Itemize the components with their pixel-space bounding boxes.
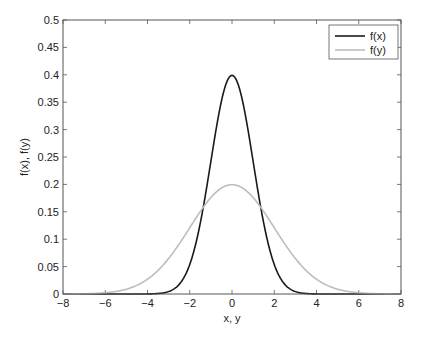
x-tick-label: −2 — [183, 297, 196, 309]
x-tick-label: 8 — [398, 297, 404, 309]
legend-label-fy: f(y) — [370, 44, 386, 56]
y-tick-label: 0.25 — [38, 151, 59, 163]
legend-label-fx: f(x) — [370, 30, 386, 42]
series-line-fy — [63, 185, 401, 294]
y-tick-label: 0.45 — [38, 41, 59, 53]
x-tick-label: 0 — [229, 297, 235, 309]
y-tick-label: 0.1 — [44, 233, 59, 245]
y-tick-label: 0.5 — [44, 14, 59, 26]
x-tick-label: 6 — [356, 297, 362, 309]
y-tick-label: 0.15 — [38, 206, 59, 218]
x-tick-label: 4 — [313, 297, 319, 309]
y-tick-label: 0.05 — [38, 261, 59, 273]
x-tick-label: 2 — [271, 297, 277, 309]
y-tick-label: 0.2 — [44, 178, 59, 190]
x-tick-label: −4 — [141, 297, 154, 309]
plot-curves — [63, 75, 401, 294]
legend-box — [329, 25, 398, 59]
y-tick-label: 0.4 — [44, 69, 59, 81]
y-tick-label: 0 — [53, 288, 59, 300]
y-axis-label: f(x), f(y) — [18, 138, 30, 176]
y-tick-label: 0.35 — [38, 96, 59, 108]
y-tick-label: 0.3 — [44, 124, 59, 136]
chart: −8−6−4−20246800.050.10.150.20.250.30.350… — [0, 0, 425, 341]
x-tick-label: −6 — [99, 297, 112, 309]
x-axis-label: x, y — [223, 312, 241, 324]
plot-frame — [63, 20, 401, 294]
legend: f(x) f(y) — [329, 25, 398, 59]
